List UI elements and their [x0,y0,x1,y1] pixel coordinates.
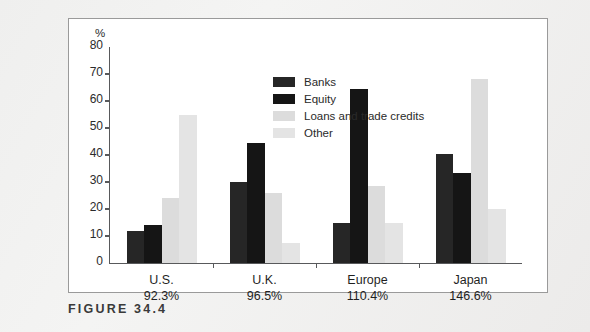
y-axis-tick-mark [105,100,110,101]
bar [333,223,351,264]
figure-caption: FIGURE 34.4 [68,302,167,316]
bar [179,115,197,264]
y-axis-tick-label: 50 [90,119,103,133]
legend-item: Equity [273,91,424,107]
x-axis-group-label: Japan146.6% [449,272,491,304]
bar [471,79,489,263]
y-axis-tick-mark [105,235,110,236]
figure-frame: % 01020304050607080 U.S.92.3%U.K.96.5%Eu… [68,18,548,293]
legend-label: Banks [304,76,336,88]
bar [162,198,180,263]
legend-color-swatch [273,111,295,121]
chart-legend: BanksEquityLoans and trade creditsOther [273,74,424,142]
legend-label: Equity [304,93,336,105]
x-axis-group-value: 96.5% [247,288,282,304]
x-axis-group-label: U.K.96.5% [247,272,282,304]
bar [144,225,162,263]
legend-item: Other [273,125,424,141]
y-axis-tick-mark [105,208,110,209]
y-axis-tick-label: 80 [90,38,103,52]
bar [385,223,403,264]
y-axis-tick-mark [105,154,110,155]
legend-item: Loans and trade credits [273,108,424,124]
bar-group-bars [127,47,197,263]
legend-color-swatch [273,77,295,87]
bar [247,143,265,263]
legend-label: Loans and trade credits [304,110,424,122]
legend-item: Banks [273,74,424,90]
legend-color-swatch [273,94,295,104]
y-axis-tick-label: 40 [90,146,103,160]
y-axis-tick-label: 20 [90,200,103,214]
y-axis-tick-mark [105,181,110,182]
bar [453,173,471,263]
x-axis-group-name: Japan [453,273,487,287]
bar-chart: % 01020304050607080 U.S.92.3%U.K.96.5%Eu… [69,19,549,294]
legend-label: Other [304,127,333,139]
bar-group: U.S.92.3% [127,47,197,263]
x-axis-group-label: Europe110.4% [347,272,388,304]
x-axis-tick-mark [213,263,214,268]
x-axis-group-label: U.S.92.3% [144,272,179,304]
y-axis-tick-mark [105,127,110,128]
x-axis-tick-mark [316,263,317,268]
y-axis-tick-mark [105,73,110,74]
x-axis-group-value: 110.4% [347,288,388,304]
y-axis-tick-label: 60 [90,92,103,106]
bar [127,231,145,263]
legend-color-swatch [273,128,295,138]
y-axis-tick-label: 10 [90,227,103,241]
x-axis-group-name: U.S. [149,273,173,287]
bar [265,193,283,263]
bar [436,154,454,263]
bar [230,182,248,263]
bar [488,209,506,263]
bar-group: Japan146.6% [436,47,506,263]
bar [368,186,386,263]
x-axis-group-value: 146.6% [449,288,491,304]
y-axis-tick-label: 70 [90,65,103,79]
x-axis-group-name: Europe [347,273,387,287]
bar-group-bars [436,47,506,263]
bar [282,243,300,263]
x-axis-group-name: U.K. [252,273,276,287]
y-axis-tick-label: 0 [96,254,103,268]
y-axis-tick-label: 30 [90,173,103,187]
x-axis-tick-mark [419,263,420,268]
